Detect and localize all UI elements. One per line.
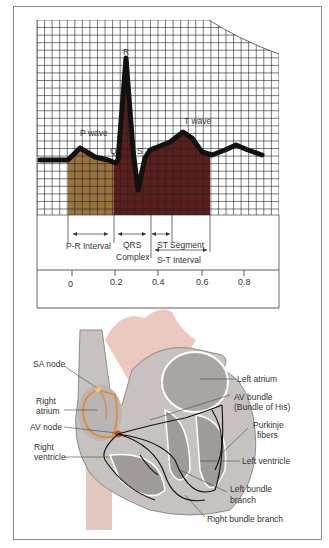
st-interval-label: S-T Interval — [157, 255, 201, 265]
right-ventricle-label-2: ventricle — [34, 452, 66, 462]
ecg-chart: R P wave Q S T wave P-R Interval QRS — [37, 20, 279, 308]
pr-interval-label: P-R Interval — [66, 241, 111, 251]
tick-0-2: 0.2 — [110, 277, 123, 287]
purkinje-label-2: fibers — [257, 430, 278, 440]
left-bundle-label-2: branch — [230, 495, 256, 505]
qrs-label-1: QRS — [123, 240, 142, 250]
right-ventricle-label-1: Right — [34, 442, 54, 452]
av-bundle-label-2: (Bundle of His) — [234, 402, 290, 412]
left-ventricle-label: Left ventricle — [242, 456, 290, 466]
tick-0-6: 0.6 — [196, 277, 209, 287]
sa-node-label: SA node — [33, 359, 65, 369]
right-bundle-label: Right bundle branch — [207, 514, 283, 524]
purkinje-label-1: Purkinje — [253, 420, 284, 430]
av-node-label: AV node — [30, 422, 62, 432]
st-segment-label: ST Segment — [157, 240, 205, 250]
r-label: R — [123, 47, 129, 57]
tick-0-8: 0.8 — [238, 277, 251, 287]
left-bundle-label-1: Left bundle — [230, 484, 272, 494]
p-wave-label: P wave — [80, 128, 108, 138]
tick-0-4: 0.4 — [152, 277, 165, 287]
left-atrium — [162, 352, 228, 412]
ecg-heart-figure: R P wave Q S T wave P-R Interval QRS — [0, 0, 329, 548]
qrs-label-2: Complex — [116, 252, 150, 262]
right-atrium-label-1: Right — [36, 396, 56, 406]
sa-node — [95, 386, 101, 392]
t-wave-label: T wave — [184, 116, 212, 126]
s-label: S — [137, 146, 143, 156]
tick-0: 0 — [68, 279, 73, 289]
q-label: Q — [110, 146, 117, 156]
left-atrium-label: Left atrium — [237, 374, 277, 384]
right-atrium-label-2: atrium — [36, 406, 60, 416]
heart-diagram: SA node Right atrium AV node Right ventr… — [30, 310, 290, 530]
av-bundle-label-1: AV bundle — [234, 392, 273, 402]
